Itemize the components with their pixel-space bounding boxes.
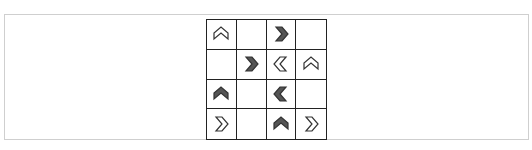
grid-cell-r3-c3[interactable] [296,109,326,139]
grid-cell-r3-c0[interactable] [207,109,237,139]
chevron-left-filled-icon [271,84,291,104]
chevron-up-outline-icon [211,24,231,44]
chevron-right-filled-icon [241,54,261,74]
chevron-right-filled-icon [271,24,291,44]
chevron-up-filled-icon [271,114,291,134]
grid-cell-r2-c0[interactable] [207,80,237,110]
grid-cell-r1-c2[interactable] [267,50,297,80]
grid-cell-r0-c1[interactable] [237,20,267,50]
grid-cell-r3-c1[interactable] [237,109,267,139]
chevron-right-outline-icon [211,114,231,134]
grid-cell-r1-c3[interactable] [296,50,326,80]
grid-cell-r3-c2[interactable] [267,109,297,139]
grid-cell-r1-c1[interactable] [237,50,267,80]
grid-cell-r0-c0[interactable] [207,20,237,50]
chevron-right-outline-icon [301,114,321,134]
chevron-up-outline-icon [301,54,321,74]
grid-cell-r1-c0[interactable] [207,50,237,80]
grid-cell-r0-c2[interactable] [267,20,297,50]
chevron-up-filled-icon [211,84,231,104]
grid-cell-r2-c1[interactable] [237,80,267,110]
grid-cell-r2-c3[interactable] [296,80,326,110]
arrow-puzzle-grid [206,19,327,140]
chevron-left-outline-icon [271,54,291,74]
grid-cell-r0-c3[interactable] [296,20,326,50]
grid-cell-r2-c2[interactable] [267,80,297,110]
